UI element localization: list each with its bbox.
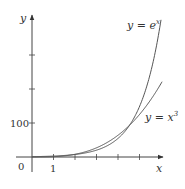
x-tick-label-1: 1 [50,163,56,174]
exp-curve-label: y = ex [126,18,160,32]
cube-curve-label: y = x3 [144,110,179,124]
y-tick-label-100: 100 [10,118,29,129]
cube-curve [32,82,162,157]
origin-label: 0 [18,161,24,172]
chart: y x 0 1 100 y = ex y = x3 [0,0,185,189]
curves [32,20,162,157]
x-axis-label: x [156,162,163,175]
exp-curve [32,20,161,157]
y-axis-label: y [19,12,27,25]
